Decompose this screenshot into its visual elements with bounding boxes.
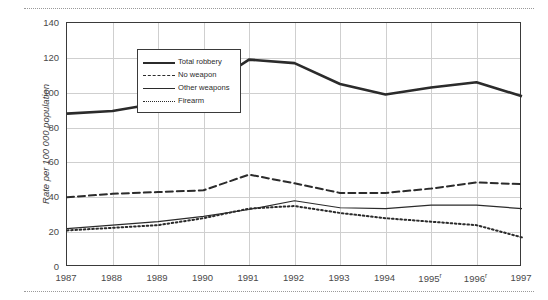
chart-figure: Rate per 100 000 population 020406080100… <box>0 0 548 300</box>
series-line <box>67 175 522 198</box>
series-layer <box>67 23 522 267</box>
x-axis-tick-label: 1996r <box>464 272 487 284</box>
legend-swatch-icon <box>142 82 176 93</box>
x-axis-tick-label: 1987 <box>55 272 76 283</box>
x-axis-tick-label: 1993 <box>328 272 349 283</box>
x-axis-tick-label: 1990 <box>192 272 213 283</box>
x-axis-tick-label: 1994 <box>374 272 395 283</box>
legend-item[interactable]: Total robbery <box>142 55 235 68</box>
legend-swatch-icon <box>142 56 176 67</box>
series-line <box>67 60 522 114</box>
series-line <box>67 201 522 229</box>
legend-item-label: Other weapons <box>176 83 230 92</box>
legend-item-label: Total robbery <box>176 57 222 66</box>
x-axis-tick-label: 1989 <box>146 272 167 283</box>
legend-swatch-icon <box>142 69 176 80</box>
x-axis-tick-label: 1995r <box>418 272 441 284</box>
chart-legend: Total robberyNo weaponOther weaponsFirea… <box>137 49 241 113</box>
legend-item[interactable]: No weapon <box>142 68 235 81</box>
y-axis-tick-label: 60 <box>48 156 59 167</box>
legend-swatch-icon <box>142 95 176 106</box>
x-axis-tick-labels: 198719881989199019911992199319941995r199… <box>0 272 548 292</box>
y-axis-tick-label: 100 <box>43 86 59 97</box>
top-dotted-rule <box>24 8 534 9</box>
legend-item[interactable]: Other weapons <box>142 81 235 94</box>
series-line <box>67 206 522 237</box>
y-axis-tick-label: 80 <box>48 121 59 132</box>
legend-item-label: Firearm <box>176 96 204 105</box>
plot-area: Total robberyNo weaponOther weaponsFirea… <box>66 22 521 266</box>
y-axis-tick-label: 0 <box>54 261 59 272</box>
x-axis-tick-label: 1988 <box>101 272 122 283</box>
legend-item[interactable]: Firearm <box>142 94 235 107</box>
y-axis-tick-labels: 020406080100120140 <box>0 0 66 300</box>
x-axis-tick-label: 1992 <box>283 272 304 283</box>
y-axis-tick-label: 40 <box>48 191 59 202</box>
legend-item-label: No weapon <box>176 70 216 79</box>
y-axis-tick-label: 120 <box>43 51 59 62</box>
x-axis-tick-label: 1991 <box>237 272 258 283</box>
y-axis-tick-label: 140 <box>43 17 59 28</box>
y-axis-tick-label: 20 <box>48 226 59 237</box>
x-axis-tick-label: 1997 <box>510 272 531 283</box>
